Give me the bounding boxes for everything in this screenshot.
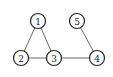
node-label: 3 bbox=[51, 54, 57, 64]
node-label: 4 bbox=[94, 54, 100, 64]
node-2: 2 bbox=[14, 51, 29, 66]
nodes: 1 2 3 4 5 bbox=[14, 14, 105, 66]
node-4: 4 bbox=[90, 51, 105, 66]
node-label: 1 bbox=[35, 17, 41, 27]
node-1: 1 bbox=[31, 14, 46, 29]
node-3: 3 bbox=[47, 51, 62, 66]
graph-diagram: 1 2 3 4 5 bbox=[0, 0, 113, 77]
node-label: 2 bbox=[18, 54, 24, 64]
node-label: 5 bbox=[74, 17, 80, 27]
node-5: 5 bbox=[70, 14, 85, 29]
